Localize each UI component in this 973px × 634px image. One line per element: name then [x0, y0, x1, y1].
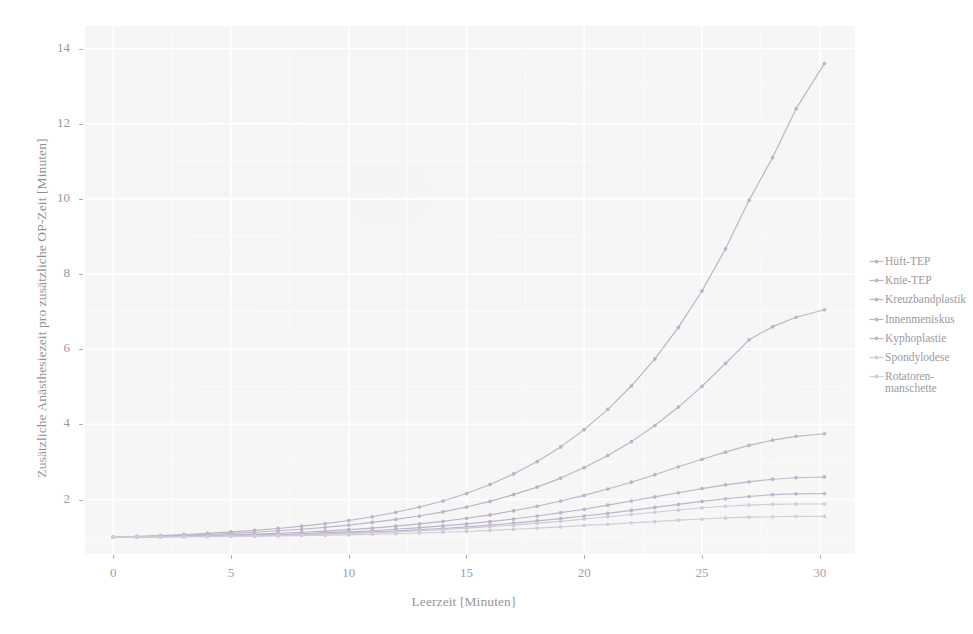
legend-item[interactable]: Spondylodese [868, 348, 973, 367]
chart-figure: Zusätzliche Anästhesiezeit pro zusätzlic… [0, 0, 973, 634]
series-1 [111, 308, 826, 539]
legend-key-icon [868, 367, 885, 386]
x-tick-label: 15 [446, 565, 486, 581]
legend-key-icon [868, 310, 885, 329]
x-tick-label: 0 [93, 565, 133, 581]
x-tick-mark [466, 555, 467, 559]
y-tick-mark [79, 424, 83, 425]
plot-canvas [85, 26, 855, 554]
chart-legend: Hüft-TEPKnie-TEPKreuzbandplastikInnenmen… [868, 252, 973, 397]
x-axis-title: Leerzeit [Minuten] [112, 594, 815, 610]
y-tick-label: 10 [36, 190, 70, 206]
y-tick-label: 12 [36, 115, 70, 131]
y-tick-mark [79, 199, 83, 200]
y-tick-mark [79, 274, 83, 275]
legend-item-label: Knie-TEP [885, 271, 932, 286]
y-tick-label: 2 [36, 491, 70, 507]
legend-item[interactable]: Knie-TEP [868, 271, 973, 290]
x-tick-label: 20 [564, 565, 604, 581]
x-tick-mark [349, 555, 350, 559]
y-axis-title: Zusätzliche Anästhesiezeit pro zusätzlic… [34, 98, 50, 518]
legend-item-label: Innenmeniskus [885, 310, 955, 325]
y-tick-mark [79, 500, 83, 501]
legend-item[interactable]: Kyphoplastie [868, 329, 973, 348]
x-tick-label: 5 [211, 565, 251, 581]
legend-key-icon [868, 329, 885, 348]
legend-item-label: Kyphoplastie [885, 329, 946, 344]
legend-key-icon [868, 252, 885, 271]
y-tick-mark [79, 124, 83, 125]
legend-item[interactable]: Rotatoren- manschette [868, 367, 973, 397]
legend-item-label: Hüft-TEP [885, 252, 930, 267]
x-tick-mark [231, 555, 232, 559]
legend-key-icon [868, 290, 885, 309]
y-tick-label: 4 [36, 415, 70, 431]
grid-major [85, 26, 855, 554]
x-tick-mark [820, 555, 821, 559]
x-tick-mark [113, 555, 114, 559]
x-tick-label: 25 [682, 565, 722, 581]
plot-panel [85, 26, 855, 554]
y-tick-label: 6 [36, 340, 70, 356]
x-tick-mark [584, 555, 585, 559]
y-tick-label: 8 [36, 265, 70, 281]
legend-item[interactable]: Hüft-TEP [868, 252, 973, 271]
legend-item[interactable]: Kreuzbandplastik [868, 290, 973, 309]
y-tick-label: 14 [36, 40, 70, 56]
x-tick-label: 10 [329, 565, 369, 581]
y-tick-mark [79, 49, 83, 50]
legend-item-label: Spondylodese [885, 348, 950, 363]
x-tick-label: 30 [800, 565, 840, 581]
legend-key-icon [868, 271, 885, 290]
grid-minor [85, 26, 855, 554]
legend-item-label: Kreuzbandplastik [885, 290, 966, 305]
y-tick-mark [79, 349, 83, 350]
legend-item[interactable]: Innenmeniskus [868, 310, 973, 329]
legend-key-icon [868, 348, 885, 367]
legend-item-label: Rotatoren- manschette [885, 367, 937, 394]
x-tick-mark [702, 555, 703, 559]
series-0 [111, 62, 826, 539]
